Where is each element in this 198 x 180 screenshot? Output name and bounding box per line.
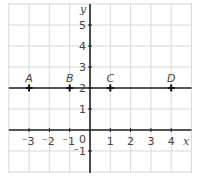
x-axis-label: x [183,135,190,148]
point-a: A [24,72,33,92]
point-label: D [167,72,175,85]
x-tick-label: 1 [107,135,114,148]
y-axis-label: y [79,3,87,16]
x-tick-label: ⁻3 [22,135,35,148]
x-tick-label: ⁻2 [42,135,55,148]
coordinate-plane: ⁻3⁻2⁻1123454321⁻1 ABCD x y 0 [0,0,198,180]
x-tick-label: 4 [168,135,175,148]
y-tick-label: ⁻1 [73,145,86,158]
y-tick-label: 1 [79,103,86,116]
x-tick-label: 2 [127,135,134,148]
point-b: B [66,72,74,92]
y-tick-label: 3 [79,61,86,74]
point-c: C [106,72,114,92]
y-tick-label: 2 [79,82,86,95]
point-label: C [106,72,114,85]
point-d: D [167,72,175,92]
y-tick-label: 5 [79,19,86,32]
point-label: A [24,72,33,85]
origin-label: 0 [79,133,86,146]
y-tick-label: 4 [79,40,86,53]
point-label: B [66,72,74,85]
x-tick-label: 3 [147,135,154,148]
